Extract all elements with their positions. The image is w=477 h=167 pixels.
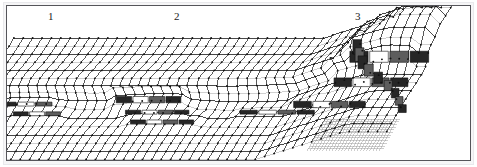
surface-mesh-plot [0,0,477,167]
figure-container: 1 2 3 [0,0,477,167]
feature-label-2: 2 [174,11,180,22]
feature-label-1: 1 [48,11,54,22]
feature-label-3: 3 [355,11,361,22]
